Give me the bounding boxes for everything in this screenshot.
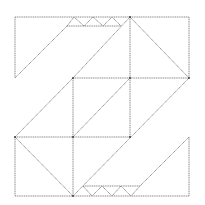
bottom-zigzag-band <box>83 186 140 196</box>
vertex-dot <box>129 16 131 18</box>
diagram-edge <box>15 78 73 137</box>
vertex-dot <box>129 77 131 79</box>
diagram-edge <box>15 137 73 196</box>
diagram-edge <box>15 26 67 78</box>
vertex-dot <box>188 77 190 79</box>
diagram-edge <box>73 78 130 137</box>
vertex-dot <box>72 195 74 197</box>
diagram-edge <box>130 17 189 78</box>
diagram-edge <box>140 137 189 186</box>
z-block-diagram <box>0 0 205 205</box>
vertex-dot <box>129 136 131 138</box>
vertex-dot <box>14 136 16 138</box>
top-zigzag-band <box>67 17 121 26</box>
vertex-dot <box>72 136 74 138</box>
diagram-edge <box>73 78 189 196</box>
diagram-lines <box>15 17 189 196</box>
vertex-dot <box>72 77 74 79</box>
